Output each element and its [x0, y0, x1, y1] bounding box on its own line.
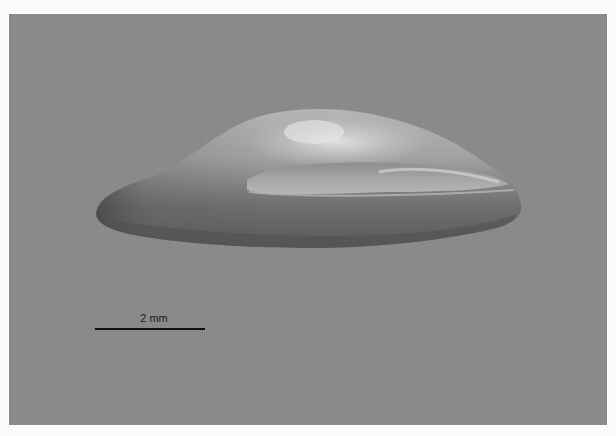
- scale-bar-line: [95, 328, 205, 330]
- scale-bar: 2 mm: [95, 311, 205, 330]
- scale-bar-label: 2 mm: [95, 311, 205, 325]
- photo-panel: 2 mm: [9, 14, 607, 425]
- seed-image: [9, 14, 607, 425]
